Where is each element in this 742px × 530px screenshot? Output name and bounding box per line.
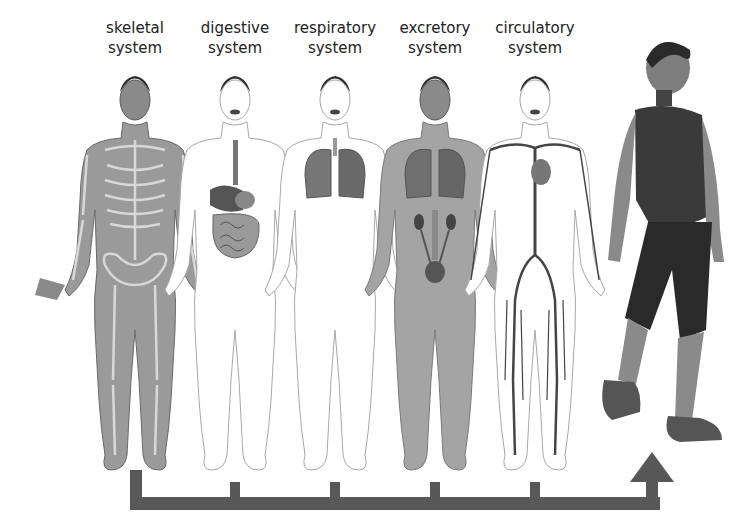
- sneaker-icon: [602, 380, 640, 420]
- arrow-bar: [130, 497, 660, 510]
- figure-walking-person: [602, 42, 724, 442]
- capri-pants: [625, 222, 712, 340]
- heart-icon: [531, 159, 551, 185]
- sneaker-icon: [667, 416, 723, 442]
- arrow-head-icon: [630, 452, 674, 482]
- diagram-canvas: [0, 0, 742, 530]
- figure-circulatory-system: [465, 76, 605, 470]
- tank-top: [635, 106, 710, 226]
